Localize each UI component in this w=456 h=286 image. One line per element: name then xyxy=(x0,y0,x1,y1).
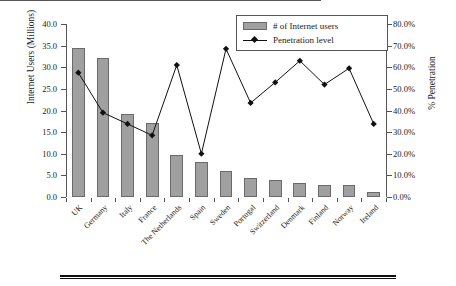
penetration-marker-sweden xyxy=(223,46,229,52)
legend-label-internet-users: # of Internet users xyxy=(273,21,338,31)
x-axis-tick xyxy=(386,198,387,202)
x-axis-tick xyxy=(66,198,67,202)
y-axis-left-title: Internet Users (Millions) xyxy=(26,0,36,132)
y-axis-right-tick-label: 20.0% xyxy=(393,150,415,159)
y-axis-left-tick-label: 30.0 xyxy=(42,63,57,72)
x-axis-tick xyxy=(288,198,289,202)
x-axis-tick xyxy=(115,198,116,202)
penetration-marker-ireland xyxy=(371,121,377,127)
legend-item-internet-users: # of Internet users xyxy=(241,19,383,33)
y-axis-right-tick xyxy=(387,89,392,90)
penetration-marker-italy xyxy=(124,121,130,127)
y-axis-right-tick xyxy=(387,175,392,176)
y-axis-left-tick-label: 5.0 xyxy=(46,171,57,180)
bar-swatch-icon xyxy=(243,22,267,30)
x-axis-tick xyxy=(312,198,313,202)
penetration-marker-norway xyxy=(346,65,352,71)
line-diamond-swatch-icon xyxy=(243,36,267,44)
y-axis-left-tick-label: 35.0 xyxy=(42,42,57,51)
y-axis-right-tick xyxy=(387,67,392,68)
y-axis-left-tick-label: 40.0 xyxy=(42,20,57,29)
penetration-marker-the-netherlands xyxy=(174,62,180,68)
x-axis-tick xyxy=(361,198,362,202)
x-axis-tick xyxy=(164,198,165,202)
y-axis-right-tick-label: 10.0% xyxy=(393,171,415,180)
x-axis-tick xyxy=(91,198,92,202)
bottom-rule-thin xyxy=(60,278,396,279)
y-axis-left-tick-label: 15.0 xyxy=(42,128,57,137)
penetration-marker-france xyxy=(149,132,155,138)
y-axis-right-tick-label: 60.0% xyxy=(393,63,415,72)
x-axis-tick xyxy=(263,198,264,202)
y-axis-right-tick xyxy=(387,197,392,198)
penetration-line-path xyxy=(78,49,373,154)
penetration-marker-spain xyxy=(198,151,204,157)
x-axis-tick xyxy=(140,198,141,202)
y-axis-right-tick xyxy=(387,132,392,133)
y-axis-left-tick-label: 10.0 xyxy=(42,150,57,159)
y-axis-right-tick-label: 30.0% xyxy=(393,128,415,137)
penetration-marker-uk xyxy=(75,70,81,76)
chart-legend: # of Internet users Penetration level xyxy=(236,15,388,51)
y-axis-right-tick-label: 80.0% xyxy=(393,20,415,29)
y-axis-right-title: % Penetration xyxy=(427,23,437,143)
y-axis-left-tick-label: 25.0 xyxy=(42,85,57,94)
x-axis-tick xyxy=(214,198,215,202)
chart-container: Internet Users (Millions) % Penetration … xyxy=(0,0,456,286)
y-axis-right-tick xyxy=(387,154,392,155)
y-axis-right-tick-label: 0.0% xyxy=(393,193,411,202)
y-axis-right-tick-label: 70.0% xyxy=(393,42,415,51)
x-axis-tick xyxy=(189,198,190,202)
y-axis-right-tick-label: 40.0% xyxy=(393,107,415,116)
y-axis-right-tick-label: 50.0% xyxy=(393,85,415,94)
y-axis-left-tick-label: 20.0 xyxy=(42,107,57,116)
penetration-marker-germany xyxy=(100,110,106,116)
x-axis-tick xyxy=(337,198,338,202)
x-axis-tick xyxy=(238,198,239,202)
legend-label-penetration-level: Penetration level xyxy=(273,35,334,45)
y-axis-right-tick xyxy=(387,111,392,112)
bottom-rule-thick xyxy=(60,275,396,277)
x-axis-line xyxy=(0,0,321,1)
legend-item-penetration-level: Penetration level xyxy=(241,33,383,47)
x-axis-label-ireland: Ireland xyxy=(289,203,380,286)
y-axis-left-tick-label: 0.0 xyxy=(46,193,57,202)
